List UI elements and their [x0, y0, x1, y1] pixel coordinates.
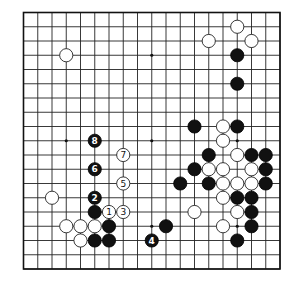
white-stone: [231, 205, 244, 218]
white-stone: [74, 234, 87, 247]
numbered-move-2: 2: [88, 191, 101, 204]
white-stone: [45, 191, 58, 204]
white-stone: [216, 220, 229, 233]
black-stone: [245, 191, 258, 204]
stones-layer: [45, 20, 272, 247]
numbered-move-7: 7: [117, 148, 130, 161]
black-stone: [245, 148, 258, 161]
white-stone: [245, 34, 258, 47]
numbered-move-8: 8: [88, 134, 101, 147]
star-point: [150, 139, 153, 142]
white-stone: [216, 120, 229, 133]
white-stone: [231, 177, 244, 190]
move-number-label: 4: [149, 236, 155, 246]
white-stone: [60, 220, 73, 233]
numbered-move-1: 1: [102, 205, 115, 218]
black-stone: [188, 120, 201, 133]
black-stone: [245, 205, 258, 218]
star-point: [65, 139, 68, 142]
black-stone: [231, 49, 244, 62]
go-board-diagram: 12345678: [0, 0, 296, 294]
star-point: [236, 225, 239, 228]
star-point: [150, 54, 153, 57]
move-number-label: 2: [92, 193, 98, 203]
star-point: [150, 225, 153, 228]
black-stone: [102, 234, 115, 247]
white-stone: [216, 177, 229, 190]
numbered-move-6: 6: [88, 163, 101, 176]
numbered-move-3: 3: [117, 205, 130, 218]
black-stone: [231, 77, 244, 90]
black-stone: [88, 234, 101, 247]
black-stone: [188, 163, 201, 176]
move-number-label: 7: [120, 150, 126, 160]
black-stone: [159, 220, 172, 233]
move-number-label: 1: [106, 207, 112, 217]
white-stone: [216, 134, 229, 147]
star-point: [236, 139, 239, 142]
black-stone: [259, 177, 272, 190]
numbered-move-4: 4: [145, 234, 158, 247]
black-stone: [231, 234, 244, 247]
black-stone: [259, 163, 272, 176]
white-stone: [231, 20, 244, 33]
white-stone: [88, 220, 101, 233]
move-number-label: 8: [92, 136, 98, 146]
black-stone: [202, 177, 215, 190]
black-stone: [231, 120, 244, 133]
black-stone: [102, 220, 115, 233]
move-number-label: 6: [92, 164, 98, 174]
white-stone: [245, 163, 258, 176]
white-stone: [202, 34, 215, 47]
white-stone: [216, 163, 229, 176]
black-stone: [88, 205, 101, 218]
white-stone: [74, 220, 87, 233]
white-stone: [231, 148, 244, 161]
move-number-label: 5: [120, 179, 126, 189]
black-stone: [259, 148, 272, 161]
numbered-move-5: 5: [117, 177, 130, 190]
white-stone: [216, 191, 229, 204]
black-stone: [174, 177, 187, 190]
black-stone: [245, 220, 258, 233]
move-number-label: 3: [120, 207, 126, 217]
white-stone: [188, 205, 201, 218]
white-stone: [202, 163, 215, 176]
black-stone: [202, 148, 215, 161]
go-board: 12345678: [0, 0, 296, 294]
white-stone: [245, 177, 258, 190]
white-stone: [60, 49, 73, 62]
black-stone: [231, 191, 244, 204]
